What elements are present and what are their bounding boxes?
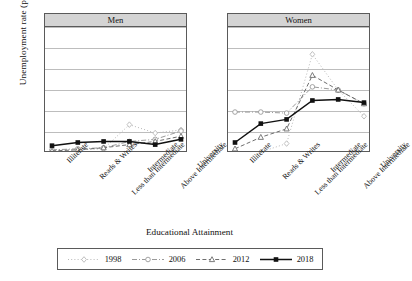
x-tick-label: University	[196, 140, 226, 170]
legend-swatch-2012	[195, 254, 229, 265]
plot-area-men: 0102030405060	[44, 26, 187, 152]
series-line-2018	[235, 99, 364, 142]
series-layer	[45, 27, 187, 152]
legend-label-1998: 1998	[105, 255, 122, 264]
y-axis-title: Unemployment rate (percentage)	[18, 0, 28, 98]
chart-legend: 1998200620122018	[57, 248, 323, 270]
x-tick-label: Reads & Writes	[280, 140, 321, 181]
panel-men-header: Men	[44, 13, 187, 26]
legend-swatch-1998	[67, 254, 101, 265]
legend-item-2006[interactable]: 2006	[131, 254, 186, 265]
series-layer	[228, 27, 370, 152]
x-axis-labels-women: IlliterateReads & WritesLess than Interm…	[227, 140, 370, 210]
x-tick-label: Reads & Writes	[97, 140, 138, 181]
series-line-2012	[235, 75, 364, 149]
panel-men-title: Men	[108, 15, 124, 25]
x-tick-label: University	[379, 140, 409, 170]
panel-women-header: Women	[227, 13, 370, 26]
x-tick-label: Illiterate	[65, 140, 90, 165]
x-tick-label: Illiterate	[248, 140, 273, 165]
legend-label-2012: 2012	[233, 255, 250, 264]
legend-item-1998[interactable]: 1998	[67, 254, 122, 265]
x-axis-title: Educational Attainment	[0, 227, 379, 237]
x-axis-labels-men: IlliterateReads & WritesLess than Interm…	[44, 140, 187, 210]
panel-men: Men 0102030405060 IlliterateReads & Writ…	[44, 13, 187, 152]
panel-women-title: Women	[285, 15, 312, 25]
legend-label-2006: 2006	[169, 255, 186, 264]
legend-label-2018: 2018	[297, 255, 314, 264]
legend-item-2018[interactable]: 2018	[259, 254, 314, 265]
legend-swatch-2018	[259, 254, 293, 265]
legend-item-2012[interactable]: 2012	[195, 254, 250, 265]
plot-area-women: 0102030405060	[227, 26, 370, 152]
legend-swatch-2006	[131, 254, 165, 265]
panel-women: Women 0102030405060 IlliterateReads & Wr…	[227, 13, 370, 152]
